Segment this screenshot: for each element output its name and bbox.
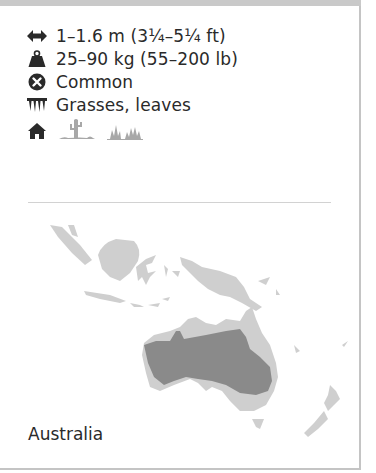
fact-status: Common <box>27 70 238 93</box>
desert-cactus-icon <box>59 118 95 144</box>
grassland-icon <box>107 122 143 144</box>
map-region-label: Australia <box>28 424 103 444</box>
fact-status-text: Common <box>56 72 133 92</box>
fact-length-text: 1–1.6 m (3¼–5¼ ft) <box>56 26 226 46</box>
land-masses <box>50 225 348 437</box>
fact-diet-text: Grasses, leaves <box>56 95 191 115</box>
weight-icon <box>27 50 47 68</box>
fact-length: 1–1.6 m (3¼–5¼ ft) <box>27 24 238 47</box>
diet-teeth-icon <box>27 96 47 114</box>
status-common-icon <box>27 73 47 91</box>
fact-weight-text: 25–90 kg (55–200 lb) <box>56 49 238 69</box>
facts-list: 1–1.6 m (3¼–5¼ ft) 25–90 kg (55–200 lb) … <box>27 24 238 144</box>
fact-diet: Grasses, leaves <box>27 93 238 116</box>
section-divider <box>28 202 331 203</box>
home-icon <box>27 122 47 144</box>
fact-weight: 25–90 kg (55–200 lb) <box>27 47 238 70</box>
range-map <box>30 215 360 445</box>
length-arrows-icon <box>27 27 47 45</box>
habitat-icons <box>27 118 238 144</box>
